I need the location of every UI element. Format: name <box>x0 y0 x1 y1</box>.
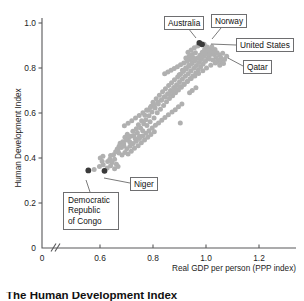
data-point <box>100 154 105 159</box>
callout-niger[interactable]: Niger <box>130 177 158 191</box>
data-point <box>208 63 213 68</box>
data-point <box>193 50 198 55</box>
y-tick-label-0: 1.0 <box>24 18 36 28</box>
leader-niger <box>104 178 130 183</box>
callout-drc-line-3: of Congo <box>68 216 114 226</box>
data-point <box>143 117 148 122</box>
data-point <box>116 164 121 169</box>
data-point <box>149 110 154 115</box>
x-tick-label-0: 0 <box>40 253 45 263</box>
x-tick-label-4: 1.2 <box>253 253 265 263</box>
callout-united-states[interactable]: United States <box>236 38 294 52</box>
x-tick-label-3: 1.0 <box>200 253 212 263</box>
callout-democratic-republic-of-congo[interactable]: Democratic Republic of Congo <box>63 192 119 230</box>
data-point <box>221 61 226 66</box>
data-point <box>205 48 210 53</box>
data-point-highlighted <box>85 167 91 173</box>
callout-norway-label: Norway <box>215 16 243 26</box>
data-point <box>178 121 183 126</box>
data-points-group <box>85 40 229 174</box>
y-tick-label-5: 0 <box>31 243 36 253</box>
callout-qatar-label: Qatar <box>247 62 268 72</box>
callout-united-states-label: United States <box>240 40 290 50</box>
figure-caption: The Human Development Index <box>0 292 304 301</box>
leader-drc <box>86 180 90 192</box>
data-point <box>144 123 149 128</box>
callout-australia[interactable]: Australia <box>164 16 204 30</box>
callout-qatar[interactable]: Qatar <box>243 60 272 74</box>
data-point <box>112 157 117 162</box>
data-point <box>108 163 113 168</box>
data-point <box>187 90 192 95</box>
leader-qatar <box>228 58 243 66</box>
data-point <box>148 119 153 124</box>
data-point <box>162 71 167 76</box>
callout-norway[interactable]: Norway <box>211 14 247 28</box>
data-point <box>113 149 118 154</box>
data-point <box>124 146 129 151</box>
x-tick-label-2: 0.8 <box>147 253 159 263</box>
leader-norway <box>212 28 221 39</box>
callout-niger-label: Niger <box>134 179 154 189</box>
x-axis-title: Real GDP per person (PPP index) <box>172 264 296 273</box>
data-point <box>220 51 225 56</box>
data-point <box>92 167 97 172</box>
data-point-highlighted <box>199 41 205 47</box>
y-tick-label-4: 0.2 <box>24 198 36 208</box>
data-point <box>200 68 205 73</box>
data-point <box>97 164 102 169</box>
y-tick-label-1: 0.8 <box>24 63 36 73</box>
y-axis-title: Human Development Index <box>14 88 23 187</box>
figure-human-development-index: 1.00.80.60.40.2000.60.81.01.2 Human Deve… <box>0 0 304 301</box>
figure-caption-text: The Human Development Index <box>6 292 177 301</box>
data-point <box>177 72 182 77</box>
data-point <box>152 115 157 120</box>
data-point <box>122 123 127 128</box>
leader-united-states <box>211 44 236 45</box>
data-point-highlighted <box>102 168 108 174</box>
callout-drc-line-1: Democratic <box>68 195 114 205</box>
x-tick-label-1: 0.6 <box>94 253 106 263</box>
data-point <box>193 85 198 90</box>
y-tick-label-2: 0.6 <box>24 108 36 118</box>
y-tick-label-3: 0.4 <box>24 153 36 163</box>
callout-australia-label: Australia <box>168 18 200 28</box>
callout-drc-line-2: Republic <box>68 205 114 215</box>
